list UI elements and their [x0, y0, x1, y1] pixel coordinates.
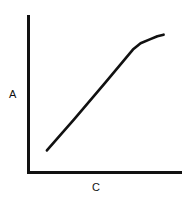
y-axis-label: A	[9, 89, 16, 100]
chart-canvas	[0, 0, 189, 201]
data-line	[47, 35, 164, 151]
x-axis-label: C	[92, 182, 100, 193]
